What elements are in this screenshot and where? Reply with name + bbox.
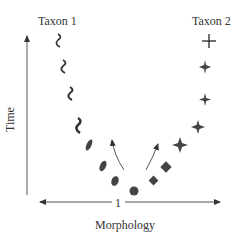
taxon1-oval-icon xyxy=(110,175,120,187)
taxon-1-lineage xyxy=(56,34,120,187)
divergence-arrow-left xyxy=(112,140,124,170)
ancestor-circle-icon xyxy=(130,187,139,196)
taxon1-squiggle-icon xyxy=(76,118,80,133)
taxon2-star-icon xyxy=(199,60,211,74)
taxon1-bar-icon xyxy=(84,139,94,152)
taxon2-plus-icon xyxy=(202,34,216,48)
taxon2-diamond-icon xyxy=(149,176,159,186)
taxon1-squiggle-icon xyxy=(56,34,60,47)
taxon2-diamond-icon xyxy=(160,161,171,172)
taxon1-squiggle-icon xyxy=(61,60,65,73)
taxon2-star-icon xyxy=(199,93,211,106)
taxon1-squiggle-icon xyxy=(68,87,72,100)
taxon2-star-icon xyxy=(191,120,205,134)
taxon2-star-icon xyxy=(172,137,188,153)
diagram-canvas xyxy=(0,0,240,237)
taxon-2-lineage xyxy=(149,34,216,185)
taxon1-oval-icon xyxy=(98,160,108,173)
divergence-arrow-right xyxy=(146,144,158,170)
